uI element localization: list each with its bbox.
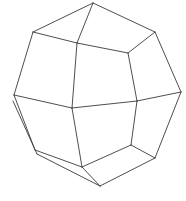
wireframe-polyhedron-figure: Wireframe polyhedron line drawing xyxy=(0,0,186,201)
figure-background xyxy=(0,0,186,201)
